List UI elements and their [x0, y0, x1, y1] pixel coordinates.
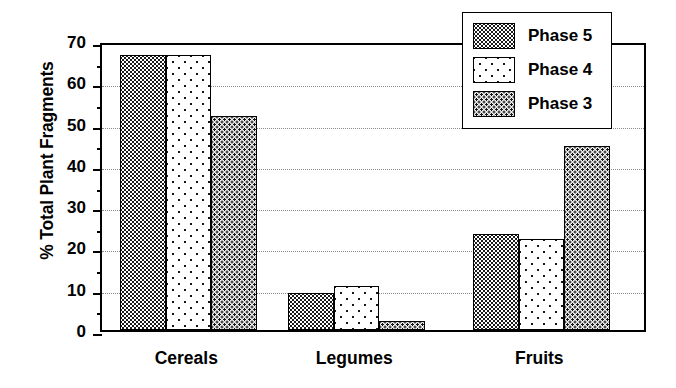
y-tick-label-30: 30	[0, 198, 100, 218]
y-tick-label-40: 40	[0, 157, 100, 177]
bar-legumes-phase-4	[334, 286, 380, 330]
y-tick-40	[93, 169, 102, 171]
y-tick-30	[93, 210, 102, 212]
y-tick-label-20: 20	[0, 239, 100, 259]
legend-swatch-phase-4	[473, 57, 515, 83]
legend-label: Phase 3	[528, 94, 592, 114]
y-tick-label-70: 70	[0, 33, 100, 53]
bar-legumes-phase-5	[288, 293, 334, 330]
y-tick-5	[97, 313, 102, 315]
y-tick-label-60: 60	[0, 74, 100, 94]
y-tick-65	[97, 66, 102, 68]
y-tick-label-0: 0	[0, 322, 100, 342]
bar-legumes-phase-3	[379, 321, 425, 330]
legend-label: Phase 5	[528, 26, 592, 46]
y-tick-60	[93, 86, 102, 88]
bar-cereals-phase-4	[166, 55, 212, 330]
legend-item-phase-4: Phase 4	[473, 55, 592, 84]
legend-item-phase-5: Phase 5	[473, 21, 592, 50]
y-tick-70	[93, 45, 102, 47]
bar-fruits-phase-4	[519, 239, 565, 330]
x-axis-label-legumes: Legumes	[316, 348, 393, 369]
bar-fruits-phase-3	[564, 146, 610, 330]
y-tick-45	[97, 148, 102, 150]
y-tick-55	[97, 107, 102, 109]
x-axis-label-fruits: Fruits	[515, 348, 564, 369]
legend-swatch-phase-5	[473, 23, 515, 49]
x-axis-label-cereals: Cereals	[155, 348, 218, 369]
legend-swatch-phase-3	[473, 91, 515, 117]
legend-label: Phase 4	[528, 60, 592, 80]
y-tick-35	[97, 190, 102, 192]
y-tick-label-50: 50	[0, 116, 100, 136]
bar-cereals-phase-5	[120, 55, 166, 330]
y-tick-10	[93, 293, 102, 295]
legend-item-phase-3: Phase 3	[473, 89, 592, 118]
bar-cereals-phase-3	[211, 116, 257, 330]
bar-fruits-phase-5	[473, 234, 519, 330]
y-tick-15	[97, 272, 102, 274]
legend: Phase 5Phase 4Phase 3	[462, 12, 612, 129]
y-tick-25	[97, 231, 102, 233]
y-tick-20	[93, 251, 102, 253]
y-tick-50	[93, 128, 102, 130]
bar-chart: % Total Plant Fragments 706050403020100 …	[0, 0, 676, 388]
y-tick-label-10: 10	[0, 281, 100, 301]
y-tick-0	[93, 334, 102, 336]
